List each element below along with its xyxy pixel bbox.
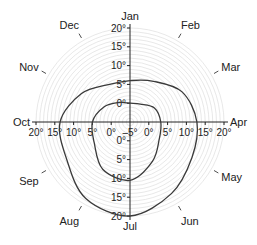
month-label-sep: Sep [19,175,39,187]
month-leader-line [214,71,218,74]
month-label-aug: Aug [59,215,79,227]
tick-label: 20° [28,127,43,138]
month-label-feb: Feb [181,19,200,31]
month-label-jun: Jun [181,215,199,227]
polar-temperature-chart: 20°20°20°20°15°15°15°15°10°10°10°10°5°5°… [0,0,257,245]
axes [32,24,228,220]
tick-label: 0° [144,127,154,138]
month-label-apr: Apr [230,116,247,128]
month-label-dec: Dec [59,19,79,31]
tick-label: 20° [216,127,231,138]
month-leader-line [42,171,46,174]
month-leader-line [179,206,182,210]
month-label-jan: Jan [121,10,139,22]
center-tick-label: –5° [122,127,137,138]
month-label-mar: Mar [221,61,240,73]
tick-label: 5° [163,127,173,138]
tick-label: 20° [111,23,126,34]
tick-label: 15° [111,41,126,52]
tick-label: 0° [106,127,116,138]
month-label-oct: Oct [13,116,30,128]
month-leader-line [42,71,46,74]
month-label-may: May [221,171,242,183]
month-leader-line [79,34,82,38]
chart-canvas: 20°20°20°20°15°15°15°15°10°10°10°10°5°5°… [0,0,257,245]
month-leader-line [214,171,218,174]
month-leader-line [179,34,182,38]
tick-label: 15° [111,192,126,203]
month-label-jul: Jul [123,220,137,232]
tick-label: 10° [66,127,81,138]
tick-label: 5° [116,154,126,165]
month-leader-line [79,206,82,210]
tick-label: 10° [111,60,126,71]
tick-label: 10° [179,127,194,138]
tick-label: 15° [198,127,213,138]
month-label-nov: Nov [19,61,39,73]
